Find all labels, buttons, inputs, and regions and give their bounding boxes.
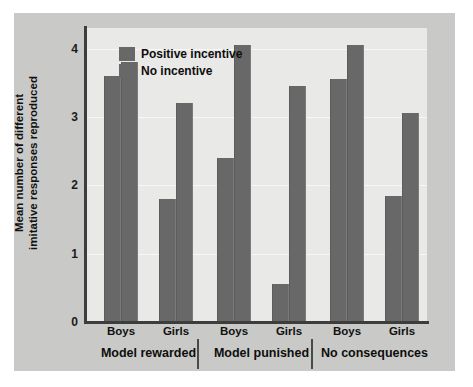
y-axis-title-line1: Mean number of different xyxy=(13,94,25,232)
y-axis-line: 01234 xyxy=(84,26,87,324)
x-tick-label: Boys xyxy=(220,325,248,337)
x-group-label: Model rewarded xyxy=(101,346,196,360)
chart-legend: Positive incentive No incentive xyxy=(119,47,242,81)
x-group-labels: Model rewardedModel punishedNo consequen… xyxy=(72,346,442,366)
bar xyxy=(159,199,176,322)
x-tick-label: Boys xyxy=(333,325,361,337)
group-separator xyxy=(197,339,199,369)
x-group-label: No consequences xyxy=(321,346,428,360)
legend-swatch-icon xyxy=(119,64,135,78)
bar xyxy=(217,158,234,322)
bar xyxy=(234,45,251,322)
x-tick-label: Boys xyxy=(107,325,135,337)
bar xyxy=(385,196,402,322)
x-axis-line xyxy=(84,321,429,324)
y-tick-label: 0 xyxy=(71,315,78,329)
chart-figure: 01234 Mean number of different imitative… xyxy=(14,13,455,371)
legend-item-no-incentive: No incentive xyxy=(119,64,242,78)
group-separator xyxy=(311,339,313,369)
x-tick-label: Girls xyxy=(276,325,302,337)
y-tick-label: 4 xyxy=(71,42,78,56)
y-tick-label: 3 xyxy=(71,110,78,124)
bar xyxy=(121,62,138,322)
x-tick-label: Girls xyxy=(163,325,189,337)
bar xyxy=(104,76,121,322)
y-tick-label: 2 xyxy=(71,178,78,192)
bar xyxy=(289,86,306,322)
legend-item-positive-incentive: Positive incentive xyxy=(119,47,242,61)
legend-label: Positive incentive xyxy=(141,47,242,61)
x-tick-labels: BoysGirlsBoysGirlsBoysGirls xyxy=(86,325,427,345)
x-tick-label: Girls xyxy=(389,325,415,337)
bar xyxy=(272,284,289,322)
x-group-label: Model punished xyxy=(214,346,309,360)
bar xyxy=(330,79,347,322)
legend-swatch-icon xyxy=(119,47,135,61)
bar xyxy=(402,113,419,322)
y-axis-title-line2: imitative responses reproduced xyxy=(27,76,39,250)
legend-label: No incentive xyxy=(141,64,212,78)
bar xyxy=(347,45,364,322)
y-axis-title: Mean number of different imitative respo… xyxy=(12,0,40,63)
bar xyxy=(176,103,193,322)
y-tick-label: 1 xyxy=(71,247,78,261)
